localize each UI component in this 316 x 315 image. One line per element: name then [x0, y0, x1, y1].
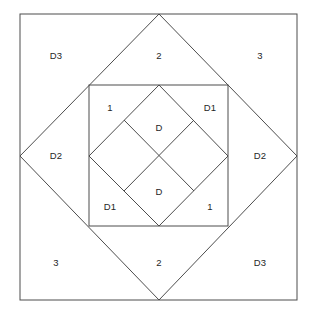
- label-d3-top-left: D3: [50, 51, 63, 61]
- label-d3-bottom-right: D3: [254, 258, 267, 268]
- label-1-inner-bottom-right: 1: [207, 202, 212, 212]
- geometry-figure: D3231D1DD2D2DD1132D3: [0, 0, 316, 315]
- label-1-inner-top-left: 1: [107, 103, 112, 113]
- label-d-upper: D: [155, 123, 162, 133]
- label-3-bottom-left: 3: [53, 258, 58, 268]
- label-d-lower: D: [155, 187, 162, 197]
- label-3-top-right: 3: [257, 51, 262, 61]
- label-d1-inner-bottom-left: D1: [104, 202, 117, 212]
- label-d1-inner-top-right: D1: [204, 103, 217, 113]
- label-2-bottom: 2: [156, 258, 161, 268]
- label-d2-right: D2: [254, 151, 267, 161]
- label-d2-left: D2: [50, 151, 63, 161]
- label-2-top: 2: [156, 51, 161, 61]
